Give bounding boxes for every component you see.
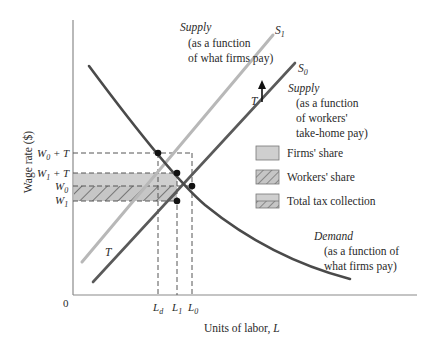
point-w0-l0: [189, 183, 196, 190]
legend-label-workers: Workers' share: [287, 171, 355, 183]
point-w1t-l1: [174, 170, 181, 177]
demand-note-1: (as a function of: [324, 245, 399, 258]
tax-regions: [74, 173, 177, 201]
tick-w0: W0: [55, 180, 68, 195]
supply1-note-1: (as a function: [188, 37, 251, 50]
supply1-note-2: of what firms pay): [188, 52, 273, 65]
y-axis-title: Wage rate ($): [22, 131, 35, 193]
supply0-title: Supply: [288, 82, 320, 95]
s1-label: S1: [275, 24, 285, 39]
tick-l0: L0: [187, 301, 198, 316]
firms-share-region: [74, 173, 177, 186]
tick-w0-plus-t: W0 + T: [37, 147, 70, 162]
t-low-label: T: [105, 246, 113, 258]
supply0-note-2: of workers': [296, 112, 348, 124]
point-w0t-ld: [155, 150, 162, 157]
supply0-note-1: (as a function: [296, 97, 359, 110]
x-axis-title: Units of labor, L: [204, 322, 280, 335]
x-tick-labels: Ld L1 L0: [152, 301, 198, 316]
legend-label-firms: Firms' share: [287, 147, 343, 159]
tick-w1-plus-t: W1 + T: [37, 167, 70, 182]
legend-swatch-firms: [256, 146, 279, 160]
s0-label: S0: [298, 62, 308, 77]
legend-label-total: Total tax collection: [287, 195, 376, 207]
legend-swatch-workers: [256, 170, 279, 184]
tick-ld: Ld: [152, 301, 164, 316]
legend: Firms' share Workers' share Total tax co…: [256, 146, 376, 208]
supply0-note-3: take-home pay): [296, 127, 368, 140]
demand-title: Demand: [313, 230, 353, 242]
supply-curve-s1: [82, 35, 273, 262]
demand-note-2: what firms pay): [324, 260, 397, 273]
origin-label: 0: [63, 297, 69, 309]
arrow-up-icon: [258, 80, 266, 89]
point-w1-l1: [174, 198, 181, 205]
supply1-title: Supply: [180, 21, 212, 34]
legend-swatch-total: [256, 194, 279, 208]
tick-l1: L1: [171, 301, 182, 316]
workers-share-region: [74, 186, 177, 201]
tick-w1: W1: [55, 194, 68, 209]
tax-incidence-diagram: T T S1 S0 Supply (as a function of what …: [0, 0, 440, 345]
y-tick-labels: W0 + T W1 + T W0 W1: [37, 147, 70, 209]
